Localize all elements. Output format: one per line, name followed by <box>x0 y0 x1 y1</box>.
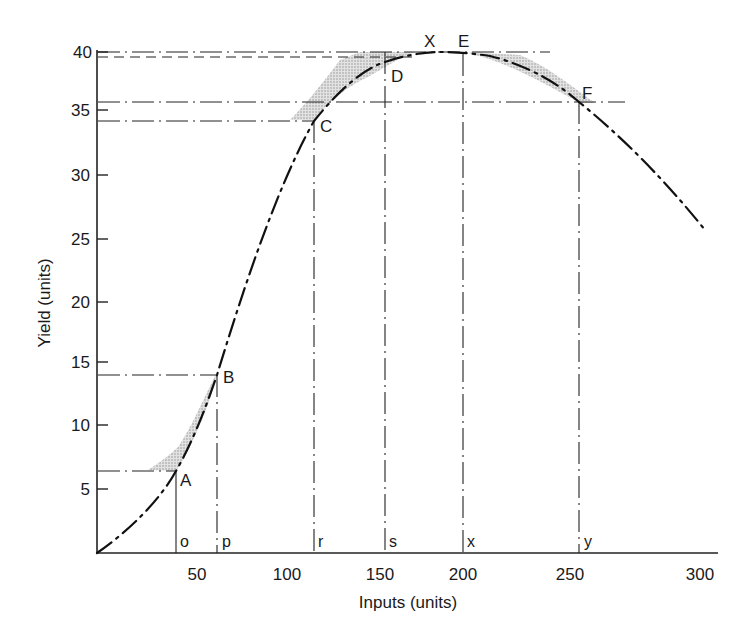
point-labels: A B C D X E F <box>180 32 592 490</box>
y-ticks <box>97 52 108 489</box>
y-tick-5: 5 <box>81 480 90 499</box>
label-a: A <box>180 471 192 490</box>
shaded-region-ef <box>470 52 595 103</box>
horizontal-guides <box>98 52 625 471</box>
label-e: E <box>458 32 469 51</box>
drop-label-y: y <box>584 533 592 550</box>
label-x: X <box>424 32 435 51</box>
x-tick-labels: 50 100 150 200 250 300 <box>188 565 715 584</box>
x-axis-title: Inputs (units) <box>359 593 457 612</box>
y-tick-40: 40 <box>73 43 92 62</box>
x-tick-150: 150 <box>366 565 394 584</box>
y-tick-20: 20 <box>71 293 90 312</box>
drop-label-s: s <box>389 533 397 550</box>
y-tick-10: 10 <box>71 416 90 435</box>
y-tick-35: 35 <box>71 101 90 120</box>
label-f: F <box>582 84 592 103</box>
label-d: D <box>391 67 403 86</box>
drop-label-p: p <box>222 533 231 550</box>
y-tick-15: 15 <box>71 353 90 372</box>
drop-label-x: x <box>467 533 475 550</box>
label-b: B <box>223 368 234 387</box>
y-axis-title: Yield (units) <box>35 258 54 347</box>
x-tick-300: 300 <box>686 565 714 584</box>
y-tick-25: 25 <box>71 230 90 249</box>
shaded-region-ab <box>148 375 217 471</box>
y-tick-30: 30 <box>71 166 90 185</box>
shaded-region-cd <box>290 52 415 120</box>
x-tick-50: 50 <box>188 565 207 584</box>
vertical-guides <box>176 52 579 553</box>
drop-labels: o p r s x y <box>180 533 592 550</box>
label-c: C <box>320 117 332 136</box>
production-chart: 40 35 30 25 20 15 10 5 50 100 150 200 25… <box>0 0 754 638</box>
x-tick-100: 100 <box>273 565 301 584</box>
x-tick-200: 200 <box>449 565 477 584</box>
y-tick-labels: 40 35 30 25 20 15 10 5 <box>71 43 92 499</box>
drop-label-r: r <box>318 533 324 550</box>
x-tick-250: 250 <box>556 565 584 584</box>
drop-label-o: o <box>180 533 189 550</box>
